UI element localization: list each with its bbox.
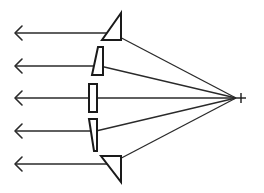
diverging-ray-segment: [96, 98, 236, 131]
ray: [15, 26, 236, 98]
prism-5: [101, 156, 121, 182]
ray: [15, 98, 236, 171]
prism-1: [102, 13, 121, 40]
ray: [15, 59, 236, 98]
diverging-ray-segment: [112, 33, 236, 98]
ray: [15, 98, 236, 138]
prism-2: [92, 47, 103, 75]
diverging-ray-segment: [100, 66, 236, 98]
ray: [15, 91, 236, 105]
point-source: [236, 93, 246, 103]
fresnel-lens-diagram: [0, 0, 264, 193]
prism-3: [89, 84, 97, 112]
rays: [15, 26, 236, 171]
prism-4: [89, 119, 97, 151]
diverging-ray-segment: [110, 98, 236, 164]
